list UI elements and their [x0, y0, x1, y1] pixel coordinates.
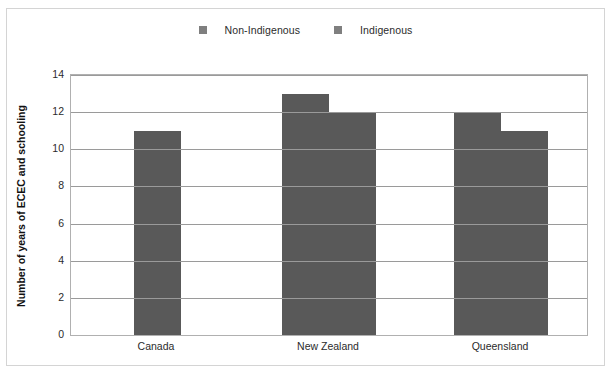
- legend-label-indigenous: Indigenous: [360, 24, 412, 36]
- legend-swatch-non-indigenous: [199, 26, 207, 34]
- y-tick-label-14: 14: [38, 68, 64, 80]
- gridline-12: [71, 112, 587, 113]
- x-label-new-zealand: New Zealand: [297, 340, 359, 352]
- legend-entry-non-indigenous[interactable]: Non-Indigenous: [199, 24, 301, 36]
- gridline-8: [71, 186, 587, 187]
- y-tick-label-2: 2: [38, 291, 64, 303]
- gridline-10: [71, 149, 587, 150]
- x-label-canada: Canada: [138, 340, 175, 352]
- legend-swatch-indigenous: [334, 26, 342, 34]
- y-axis-tick-labels: 02468101214: [36, 74, 64, 336]
- bars-layer: [71, 75, 587, 335]
- gridline-14: [71, 75, 587, 76]
- bar-canada-non-indigenous: [134, 131, 181, 335]
- y-tick-label-6: 6: [38, 217, 64, 229]
- gridline-6: [71, 224, 587, 225]
- x-label-queensland: Queensland: [472, 340, 529, 352]
- y-tick-label-4: 4: [38, 254, 64, 266]
- gridline-2: [71, 298, 587, 299]
- y-tick-label-10: 10: [38, 142, 64, 154]
- legend-label-non-indigenous: Non-Indigenous: [225, 24, 301, 36]
- y-tick-label-12: 12: [38, 105, 64, 117]
- bar-chart-figure: Non-Indigenous Indigenous Number of year…: [0, 0, 611, 374]
- y-tick-label-8: 8: [38, 179, 64, 191]
- x-axis-category-labels: CanadaNew ZealandQueensland: [70, 340, 588, 360]
- y-axis-title: Number of years of ECEC and schooling: [12, 74, 30, 338]
- gridline-4: [71, 261, 587, 262]
- plot-area: [70, 74, 588, 336]
- bar-queensland-indigenous: [501, 131, 548, 335]
- legend-entry-indigenous[interactable]: Indigenous: [334, 24, 412, 36]
- y-tick-label-0: 0: [38, 328, 64, 340]
- chart-legend: Non-Indigenous Indigenous: [0, 20, 611, 40]
